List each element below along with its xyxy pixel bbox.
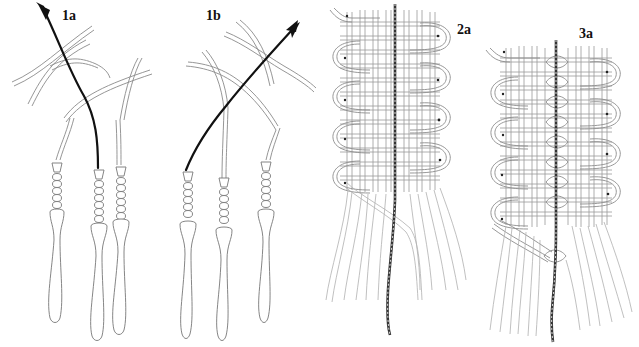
panel-3a-drawing [0,0,639,347]
panel-label-1b: 1b [206,8,221,24]
panel-label-1a: 1a [62,8,76,24]
panel-label-2a: 2a [457,22,471,38]
panel-label-3a: 3a [579,26,593,42]
figure: 1a 1b 2a 3a [0,0,639,347]
